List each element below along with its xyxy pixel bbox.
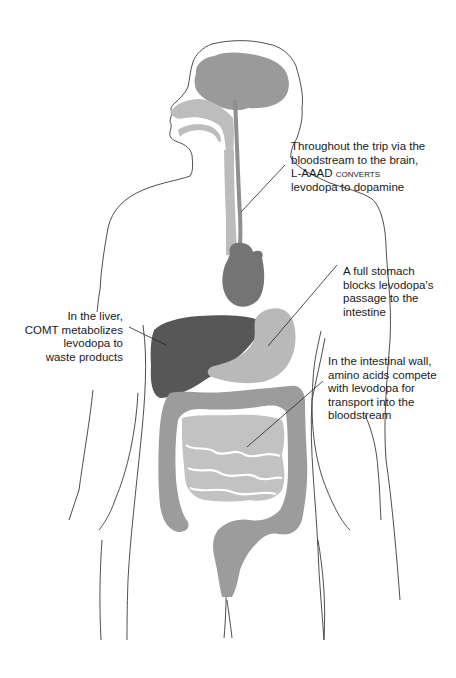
annotation-stomach-line-3: passage to the: [343, 292, 433, 306]
annotation-liver-line-4: waste products: [20, 351, 123, 365]
palate: [178, 124, 221, 142]
annotation-brain-line-3: L-AAAD converts: [291, 167, 425, 181]
leader-stomach: [268, 265, 337, 346]
annotation-brain-line-2: bloodstream to the brain,: [291, 154, 425, 168]
nasal-airway: [170, 99, 234, 255]
annotation-stomach-line-2: blocks levodopa's: [343, 279, 433, 293]
right-arm-outline: [365, 415, 381, 520]
left-hip-outline: [100, 540, 102, 640]
annotation-liver: In the liver, COMT metabolizes levodopa …: [20, 310, 123, 364]
annotation-intestine: In the intestinal wall, amino acids comp…: [328, 355, 437, 423]
annotation-intestine-line-1: In the intestinal wall,: [328, 355, 437, 369]
annotation-liver-line-2: COMT metabolizes: [20, 324, 123, 338]
annotation-intestine-line-5: bloodstream: [328, 409, 437, 423]
annotation-brain-line-1: Throughout the trip via the: [291, 140, 425, 154]
right-torso-side: [311, 338, 325, 640]
annotation-liver-line-3: levodopa to: [20, 337, 123, 351]
right-hip-outline: [318, 540, 325, 640]
annotation-stomach-line-4: intestine: [343, 306, 433, 320]
annotation-liver-line-1: In the liver,: [20, 310, 123, 324]
annotation-brain-line-4: levodopa to dopamine: [291, 181, 425, 195]
leader-brain: [241, 165, 285, 212]
annotation-intestine-line-4: transport into the: [328, 396, 437, 410]
annotation-stomach: A full stomach blocks levodopa's passage…: [343, 265, 433, 319]
annotation-brain: Throughout the trip via the bloodstream …: [291, 140, 425, 194]
left-arm-outline: [69, 390, 93, 520]
annotation-intestine-line-2: amino acids compete: [328, 369, 437, 383]
left-shoulder-outline: [97, 155, 193, 312]
annotation-stomach-line-1: A full stomach: [343, 265, 433, 279]
annotation-intestine-line-3: with levodopa for: [328, 382, 437, 396]
left-torso-outline: [127, 325, 146, 640]
leg-line-right: [227, 600, 232, 638]
left-arm-inner: [99, 393, 138, 530]
